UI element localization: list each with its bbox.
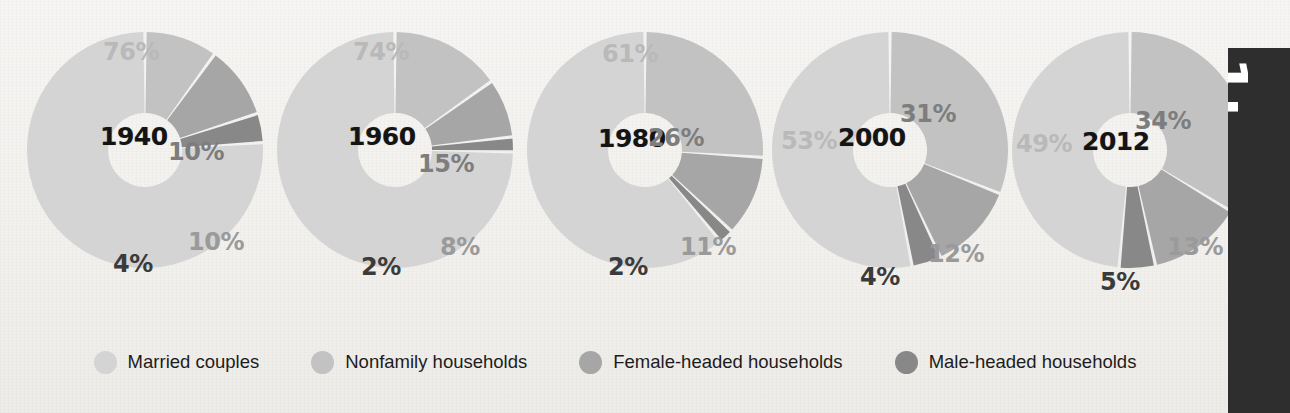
side-panel-text: 1: [1228, 57, 1259, 118]
year-label-1940: 1940 [100, 122, 168, 151]
legend-swatch-male-icon [895, 351, 918, 374]
legend-label-married: Married couples [128, 351, 260, 373]
pct-label-1960-nonfamily: 15% [418, 150, 474, 178]
pct-label-1940-married: 76% [103, 38, 159, 66]
legend-item-male: Male-headed households [895, 351, 1137, 374]
legend-label-nonfamily: Nonfamily households [345, 351, 527, 373]
pct-label-2000-male: 4% [860, 263, 900, 291]
pct-label-2012-female: 13% [1167, 233, 1223, 261]
year-label-1960: 1960 [348, 122, 416, 151]
legend-swatch-female-icon [579, 351, 602, 374]
legend-swatch-married-icon [94, 351, 117, 374]
pct-label-2012-married: 49% [1016, 130, 1072, 158]
pct-label-1960-male: 2% [361, 253, 401, 281]
infographic-page: 1940196019802000201276%10%10%4%74%15%8%2… [0, 0, 1290, 413]
pct-label-1960-married: 74% [353, 38, 409, 66]
pct-label-1940-female: 10% [188, 228, 244, 256]
pct-label-1980-female: 11% [680, 233, 736, 261]
pct-label-2012-nonfamily: 34% [1135, 107, 1191, 135]
pie-chart-row: 1940196019802000201276%10%10%4%74%15%8%2… [0, 0, 1290, 330]
pct-label-2000-married: 53% [781, 127, 837, 155]
legend-label-male: Male-headed households [929, 351, 1137, 373]
pct-label-1960-female: 8% [440, 233, 480, 261]
donut-svg [1005, 10, 1255, 310]
pct-label-2000-female: 12% [928, 240, 984, 268]
pct-label-1940-male: 4% [113, 250, 153, 278]
pct-label-1940-nonfamily: 10% [168, 138, 224, 166]
pct-label-2000-nonfamily: 31% [900, 100, 956, 128]
pct-label-1980-married: 61% [602, 40, 658, 68]
pct-label-1980-nonfamily: 26% [648, 124, 704, 152]
legend-swatch-nonfamily-icon [311, 351, 334, 374]
legend-item-female: Female-headed households [579, 351, 842, 374]
legend-label-female: Female-headed households [613, 351, 842, 373]
legend-item-nonfamily: Nonfamily households [311, 351, 527, 374]
pct-label-1980-male: 2% [608, 253, 648, 281]
pct-label-2012-male: 5% [1100, 268, 1140, 296]
legend-item-married: Married couples [94, 351, 260, 374]
chart-legend: Married couplesNonfamily householdsFemal… [0, 336, 1230, 388]
year-label-2000: 2000 [838, 123, 906, 152]
side-panel: 1: [1228, 48, 1290, 413]
